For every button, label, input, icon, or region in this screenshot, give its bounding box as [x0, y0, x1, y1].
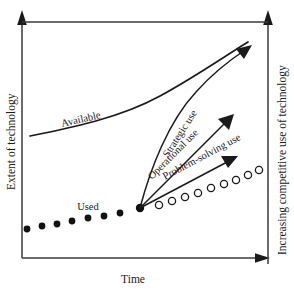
technology-gap-diagram: Extent of technology Increasing competit… — [0, 0, 294, 291]
available-series-label: Available — [60, 109, 102, 129]
left-axis-label: Extent of technology — [5, 93, 18, 190]
competitive-use-circle — [155, 201, 162, 208]
used-dot — [54, 221, 61, 228]
competitive-use-circle — [168, 197, 175, 204]
used-dot — [69, 218, 76, 225]
competitive-use-circle — [232, 176, 239, 183]
used-series-label: Used — [77, 201, 99, 212]
competitive-use-circle — [181, 193, 188, 200]
competitive-use-circle — [255, 166, 262, 173]
competitive-use-circle — [194, 189, 201, 196]
used-dot — [101, 213, 108, 220]
competitive-use-circle — [244, 171, 251, 178]
chart-canvas: Extent of technology Increasing competit… — [0, 0, 294, 291]
competitive-use-circle — [207, 184, 214, 191]
used-dot — [39, 223, 46, 230]
used-dot — [24, 226, 31, 233]
bottom-axis-label: Time — [121, 273, 145, 285]
competitive-use-circle — [220, 180, 227, 187]
right-axis-label: Increasing competitive use of technology — [276, 65, 289, 255]
used-dot — [117, 210, 124, 217]
used-dot — [85, 215, 92, 222]
problem-solving-use-arrowhead-icon — [221, 156, 238, 168]
